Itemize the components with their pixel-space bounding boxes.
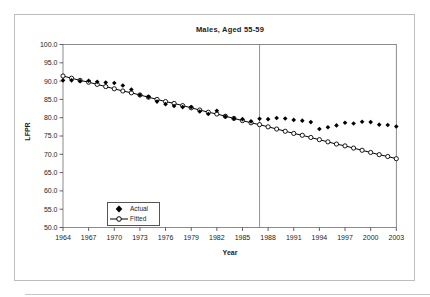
svg-text:1997: 1997 <box>337 234 353 241</box>
svg-text:65.0: 65.0 <box>44 169 58 176</box>
svg-text:1967: 1967 <box>81 234 97 241</box>
legend: Actual Fitted <box>107 202 160 226</box>
svg-text:1970: 1970 <box>106 234 122 241</box>
legend-item-actual: Actual <box>108 204 159 214</box>
svg-text:60.0: 60.0 <box>44 187 58 194</box>
legend-label-actual: Actual <box>130 204 148 214</box>
legend-label-fitted: Fitted <box>130 214 146 224</box>
svg-text:1988: 1988 <box>260 234 276 241</box>
plot-area-canvas: 100.095.090.085.080.075.070.065.060.055.… <box>0 0 430 297</box>
svg-text:95.0: 95.0 <box>44 59 58 66</box>
svg-text:100.0: 100.0 <box>40 41 58 48</box>
svg-text:2000: 2000 <box>363 234 379 241</box>
svg-text:90.0: 90.0 <box>44 78 58 85</box>
svg-text:1964: 1964 <box>55 234 71 241</box>
actual-diamond-marker-icon <box>108 204 130 214</box>
svg-text:1994: 1994 <box>312 234 328 241</box>
chart-figure: Males, Aged 55-59 LFPR Year 100.095.090.… <box>0 0 430 297</box>
svg-text:75.0: 75.0 <box>44 132 58 139</box>
svg-text:85.0: 85.0 <box>44 96 58 103</box>
fitted-line-circle-marker-icon <box>108 214 130 224</box>
legend-item-fitted: Fitted <box>108 214 159 224</box>
svg-text:1973: 1973 <box>132 234 148 241</box>
svg-text:1979: 1979 <box>183 234 199 241</box>
svg-text:1976: 1976 <box>158 234 174 241</box>
svg-text:1991: 1991 <box>286 234 302 241</box>
svg-text:50.0: 50.0 <box>44 224 58 231</box>
svg-text:70.0: 70.0 <box>44 151 58 158</box>
svg-text:2003: 2003 <box>389 234 405 241</box>
scan-artifact-line <box>25 294 430 295</box>
svg-text:1982: 1982 <box>209 234 225 241</box>
svg-text:55.0: 55.0 <box>44 206 58 213</box>
svg-text:80.0: 80.0 <box>44 114 58 121</box>
svg-text:1985: 1985 <box>235 234 251 241</box>
